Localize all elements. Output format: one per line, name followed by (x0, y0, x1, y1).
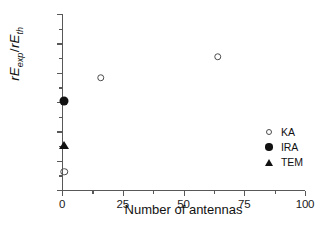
x-tick-major (184, 191, 185, 196)
y-axis-title-lead: rE (7, 67, 22, 81)
y-axis-title-slash: / (7, 48, 22, 53)
y-axis-title-sub-th: th (15, 27, 25, 35)
y-axis-title: rEexp/rEth (7, 0, 25, 114)
y-tick-major (57, 131, 62, 132)
y-tick-minor (59, 117, 62, 118)
x-tick-major (305, 191, 306, 196)
y-tick-major (57, 43, 62, 44)
y-axis-title-sub-exp: exp (15, 53, 25, 68)
x-tick-minor (92, 191, 93, 194)
legend-entry-ira: IRA (262, 141, 303, 153)
y-tick-major (57, 161, 62, 162)
chart-legend: KAIRATEM (262, 126, 303, 168)
legend-label-ira: IRA (281, 141, 298, 153)
open-circle-icon (266, 129, 273, 136)
x-tick-minor (153, 191, 154, 194)
x-tick-major (62, 191, 63, 196)
legend-entry-tem: TEM (262, 156, 303, 168)
data-point-ka (97, 74, 105, 82)
y-tick-minor (59, 87, 62, 88)
legend-marker-tem-icon (262, 159, 276, 166)
x-axis-title: Number of antennas (62, 202, 305, 217)
legend-label-tem: TEM (281, 156, 303, 168)
x-tick-major (244, 191, 245, 196)
y-tick-minor (59, 29, 62, 30)
y-tick-major (57, 14, 62, 15)
filled-circle-icon (265, 143, 273, 151)
y-tick-major (57, 73, 62, 74)
x-tick-minor (214, 191, 215, 194)
legend-marker-ira-icon (262, 143, 276, 151)
y-axis-title-lead2: rE (7, 34, 22, 48)
legend-label-ka: KA (281, 126, 295, 138)
filled-triangle-icon (265, 159, 273, 166)
data-point-ira (60, 97, 69, 106)
y-tick-minor (59, 58, 62, 59)
scatter-chart-figure: 0.20.30.40.50.60.70.8 0255075100 rEexp/r… (0, 0, 323, 229)
x-tick-major (123, 191, 124, 196)
legend-marker-ka-icon (262, 129, 276, 136)
data-point-ka (61, 168, 69, 176)
x-tick-minor (275, 191, 276, 194)
legend-entry-ka: KA (262, 126, 303, 138)
data-point-tem (59, 141, 69, 149)
data-point-ka (214, 53, 222, 61)
